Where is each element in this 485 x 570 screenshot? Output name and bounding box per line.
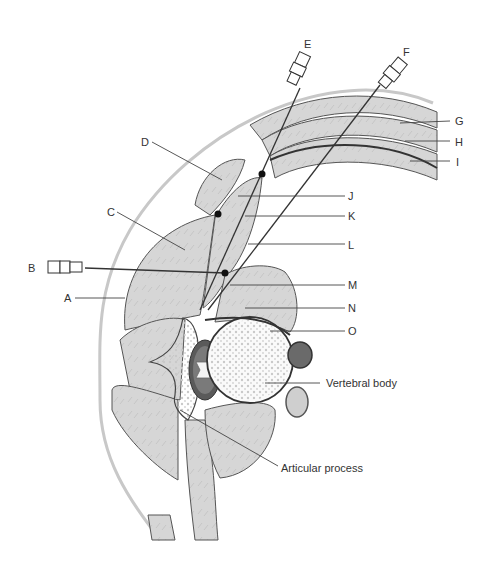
label-e: E [304, 38, 311, 50]
muscle-lower-c [148, 515, 175, 540]
label-b: B [28, 262, 35, 274]
label-l: L [348, 239, 354, 251]
label-a: A [64, 292, 71, 304]
needle-f-tip [259, 171, 266, 178]
label-f: F [403, 46, 410, 58]
needle-e-tip [215, 211, 222, 218]
label-d: D [141, 136, 149, 148]
label-h: H [455, 136, 463, 148]
aorta [288, 342, 312, 368]
label-c: C [107, 206, 115, 218]
label-o: O [348, 325, 357, 337]
label-k: K [348, 210, 355, 222]
label-i: I [456, 156, 459, 168]
needle-e-hub [285, 51, 311, 86]
label-j: J [348, 190, 354, 202]
needle-b-hub [48, 261, 82, 273]
label-m: M [348, 279, 357, 291]
label-articular-process: Articular process [281, 462, 363, 474]
muscle-psoas [205, 403, 275, 479]
label-vertebral-body: Vertebral body [326, 377, 397, 389]
needle-b-tip [222, 270, 229, 277]
needle-f-hub [377, 56, 408, 90]
label-n: N [348, 302, 356, 314]
muscle-lower-a [112, 385, 178, 480]
label-g: G [455, 115, 464, 127]
anatomy-diagram [0, 0, 485, 570]
vein [286, 387, 308, 417]
